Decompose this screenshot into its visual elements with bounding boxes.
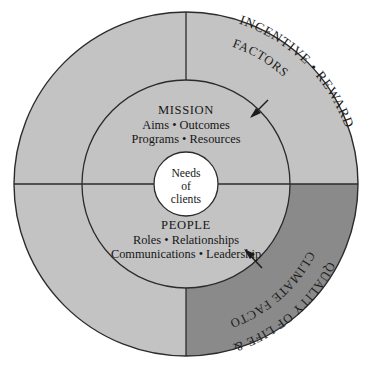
diagram-root: INCENTIVE • REWARD FACTORS QUALITY OF LI… [0,0,371,368]
concentric-circle-diagram: INCENTIVE • REWARD FACTORS QUALITY OF LI… [0,0,371,368]
people-heading: PEOPLE [161,218,211,232]
people-line-1: Roles • Relationships [133,233,239,247]
mission-heading: MISSION [158,103,214,117]
core-line-1: Needs [172,167,201,180]
core-line-3: clients [171,193,202,206]
mission-line-2: Programs • Resources [132,132,241,146]
core-line-2: of [181,180,191,193]
mission-line-1: Aims • Outcomes [142,118,230,132]
people-line-2: Communications • Leadership [111,247,261,261]
